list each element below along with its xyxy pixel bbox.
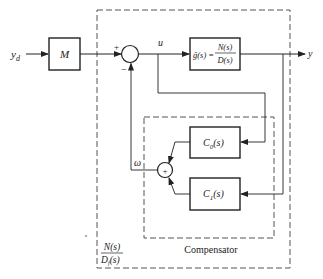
output-label-y: y: [307, 48, 313, 59]
block-m-label: M: [59, 48, 70, 60]
input-label-yd: yd: [10, 48, 21, 63]
plant-numerator: N(s): [217, 42, 233, 52]
omega-signal-label: ω: [134, 157, 141, 168]
plant-lhs: ĝ(s) =: [193, 50, 214, 60]
plant-denominator: D(s): [216, 55, 232, 65]
plus-sign-main: +: [114, 42, 119, 52]
closed-loop-denominator: Df(s): [100, 255, 120, 266]
main-summing-junction: [122, 46, 139, 63]
plus-sign-compensator: +: [162, 166, 167, 176]
minus-sign-main: −: [121, 64, 127, 75]
y-to-c1-wire: [241, 54, 283, 194]
compensator-label: Compensator: [184, 244, 238, 255]
c0-to-summer-wire: [169, 142, 190, 163]
c1-to-summer-wire: [169, 178, 190, 194]
u-signal-label: u: [158, 37, 163, 48]
block-diagram: yd M + − u ĝ(s) = N(s) D(s) y C0(s) C1(s…: [0, 0, 323, 279]
closed-loop-numerator: N(s): [103, 242, 120, 253]
stray-dot: [85, 235, 87, 237]
